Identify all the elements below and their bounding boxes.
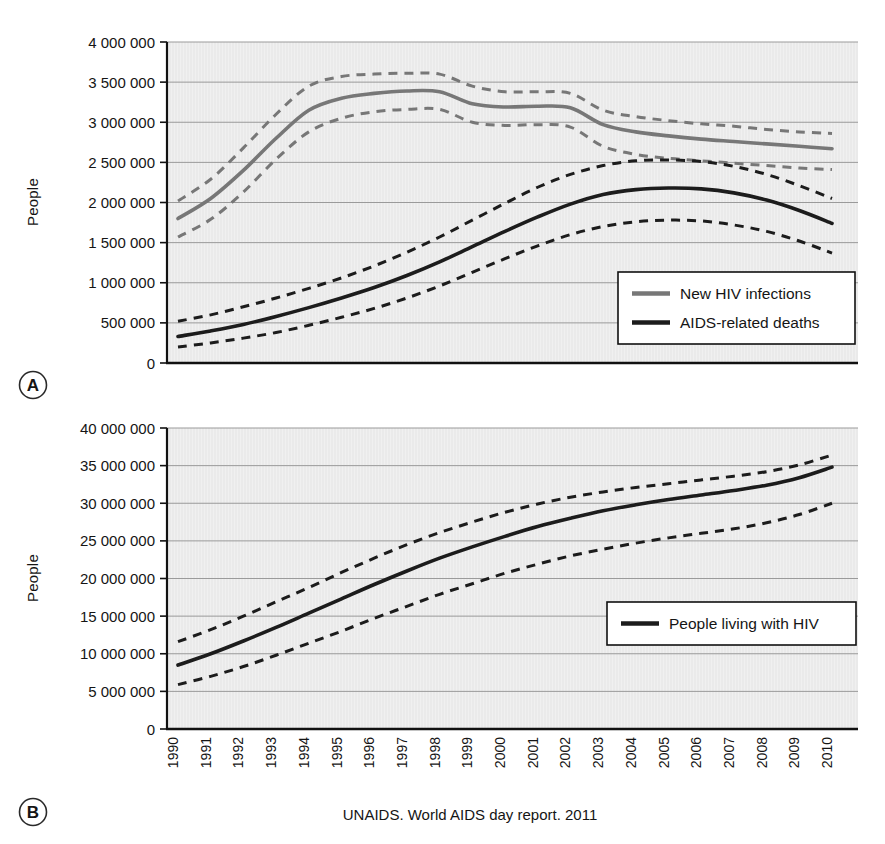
- x-tick-label: 1993: [263, 737, 279, 768]
- y-tick-label: 35 000 000: [80, 457, 155, 474]
- y-tick-label: 10 000 000: [80, 645, 155, 662]
- x-tick-label: 2006: [688, 737, 704, 768]
- y-tick-label: 20 000 000: [80, 570, 155, 587]
- x-tick-label: 2004: [623, 737, 639, 768]
- figure-container: 4 000 0003 500 0003 000 0002 500 0002 00…: [0, 0, 885, 844]
- panel-letter-text: B: [27, 803, 39, 822]
- legend: People living with HIV: [607, 602, 856, 645]
- x-tick-label: 2007: [721, 737, 737, 768]
- y-tick-label: 4 000 000: [88, 34, 155, 51]
- legend-label: People living with HIV: [669, 615, 820, 632]
- legend: New HIV infectionsAIDS-related deaths: [618, 272, 855, 344]
- y-tick-label: 0: [147, 355, 155, 372]
- x-tick-label: 1997: [394, 737, 410, 768]
- figure-caption: UNAIDS. World AIDS day report. 2011: [343, 806, 598, 823]
- x-tick-label: 1994: [296, 737, 312, 768]
- x-tick-label: 2009: [786, 737, 802, 768]
- x-tick-label: 2003: [590, 737, 606, 768]
- chart-panel-a: 4 000 0003 500 0003 000 0002 500 0002 00…: [20, 34, 859, 399]
- legend-label: New HIV infections: [680, 285, 811, 302]
- y-tick-label: 500 000: [101, 314, 155, 331]
- x-tick-label: 2010: [819, 737, 835, 768]
- x-tick-label: 2001: [525, 737, 541, 768]
- x-axis-tick-labels: 1990199119921993199419951996199719981999…: [165, 737, 835, 768]
- panel-letter-a: A: [20, 372, 47, 399]
- y-tick-label: 1 000 000: [88, 274, 155, 291]
- x-tick-label: 2002: [557, 737, 573, 768]
- y-tick-label: 40 000 000: [80, 420, 155, 437]
- y-tick-label: 2 000 000: [88, 194, 155, 211]
- legend-label: AIDS-related deaths: [680, 314, 820, 331]
- y-tick-label: 5 000 000: [88, 683, 155, 700]
- y-axis-title: People: [24, 554, 41, 602]
- y-tick-label: 15 000 000: [80, 608, 155, 625]
- panel-letter-b: B: [20, 799, 47, 826]
- x-tick-label: 2008: [754, 737, 770, 768]
- x-tick-label: 1991: [198, 737, 214, 768]
- y-tick-label: 3 000 000: [88, 114, 155, 131]
- x-tick-label: 1996: [361, 737, 377, 768]
- y-tick-label: 0: [147, 721, 155, 738]
- x-tick-label: 1999: [459, 737, 475, 768]
- y-tick-label: 25 000 000: [80, 532, 155, 549]
- x-tick-label: 1992: [230, 737, 246, 768]
- panel-letter-text: A: [27, 376, 39, 395]
- x-tick-label: 2005: [656, 737, 672, 768]
- y-tick-label: 3 500 000: [88, 74, 155, 91]
- x-tick-label: 1990: [165, 737, 181, 768]
- y-tick-label: 30 000 000: [80, 495, 155, 512]
- x-tick-label: 2000: [492, 737, 508, 768]
- x-tick-label: 1998: [427, 737, 443, 768]
- y-axis-title: People: [24, 178, 41, 226]
- y-tick-label: 1 500 000: [88, 234, 155, 251]
- figure-svg: 4 000 0003 500 0003 000 0002 500 0002 00…: [0, 0, 885, 844]
- x-tick-label: 1995: [329, 737, 345, 768]
- y-tick-label: 2 500 000: [88, 154, 155, 171]
